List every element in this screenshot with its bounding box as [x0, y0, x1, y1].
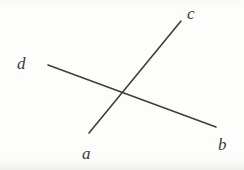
- lines-canvas: [0, 0, 244, 170]
- line-segment-db: [48, 65, 216, 127]
- vertex-label-d: d: [17, 55, 26, 72]
- vertex-label-c: c: [187, 5, 195, 22]
- geometry-figure: d c a b: [0, 0, 244, 170]
- line-segment-ac: [89, 21, 181, 133]
- vertex-label-a: a: [82, 145, 91, 162]
- vertex-label-b: b: [218, 136, 227, 153]
